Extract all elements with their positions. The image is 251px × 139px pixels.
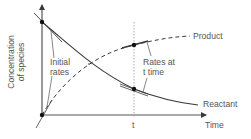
x-tick-t: t [132, 120, 134, 130]
reaction-rate-diagram: Concentration of species Initial rates R… [0, 0, 251, 139]
initial-rates-pointer-bottom [47, 76, 52, 107]
rates-at-t-label-line2: t time [143, 67, 164, 77]
y-axis-label-line2: of species [16, 12, 26, 112]
initial-rate-tangent-product [36, 100, 52, 128]
initial-rates-label-line2: rates [50, 67, 69, 77]
x-axis-label: Time [205, 120, 224, 130]
initial-rates-pointer-top [51, 31, 54, 58]
reactant-label: Reactant [203, 99, 237, 109]
rates-at-t-label-line1: Rates at [143, 57, 175, 67]
reactant-point-at-t [132, 87, 136, 91]
product-point-at-t [132, 43, 136, 47]
curve-intersection-point [88, 63, 90, 65]
y-axis-label-line1: Concentration [6, 12, 16, 112]
product-label: Product [193, 31, 223, 41]
rates-at-t-pointer-bottom [143, 78, 147, 92]
product-start-point [40, 113, 44, 117]
y-axis-label: Concentration of species [6, 12, 26, 112]
rates-at-t-pointer-top [147, 42, 151, 56]
initial-rates-label-line1: Initial [50, 57, 70, 67]
initial-rate-tangent-reactant [34, 13, 62, 42]
diagram-graphics [0, 0, 251, 139]
reactant-start-point [40, 20, 44, 24]
